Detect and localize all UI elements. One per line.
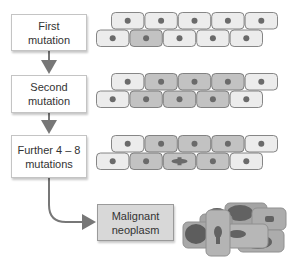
malignant-nucleus	[185, 224, 207, 244]
malignant-cell-cluster	[0, 0, 292, 260]
malignant-nucleus	[228, 230, 246, 238]
malignant-nucleus	[265, 216, 274, 222]
